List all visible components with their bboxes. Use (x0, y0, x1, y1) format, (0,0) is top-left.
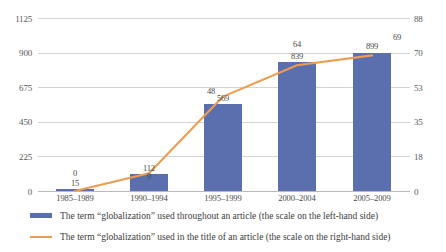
axis-baseline (38, 191, 410, 192)
line-label-1985-1989: 0 (55, 168, 95, 178)
y-axis-right-tick-5: 88 (414, 14, 444, 24)
x-axis-label-2005-2009: 2005–2009 (327, 193, 417, 203)
chart-legend: The term “globalization” used throughout… (0, 205, 446, 247)
bar-label-2005-2009: 899 (352, 41, 392, 51)
y-axis-right-tick-4: 70 (414, 48, 444, 58)
line-label-1995-1999: 48 (191, 86, 231, 96)
legend-label-bars: The term “globalization” used throughout… (60, 211, 378, 221)
y-axis-left-tick-1: 225 (0, 152, 32, 162)
legend-label-line: The term “globalization” used in the tit… (60, 232, 391, 242)
bar-label-2000-2004: 839 (277, 51, 317, 61)
bar-label-1985-1989: 15 (55, 178, 95, 188)
line-label-1990-1994: 9 (129, 171, 169, 181)
y-axis-left-tick-0: 0 (0, 187, 32, 197)
legend-item-bars: The term “globalization” used throughout… (0, 205, 446, 226)
y-axis-left-tick-3: 675 (0, 83, 32, 93)
y-axis-right-tick-0: 0 (414, 187, 444, 197)
line-label-2005-2009: 69 (377, 32, 417, 42)
y-axis-left-tick-4: 900 (0, 48, 32, 58)
y-axis-left-tick-5: 1125 (0, 14, 32, 24)
y-axis-right-tick-1: 18 (414, 152, 444, 162)
line-label-2000-2004: 64 (277, 39, 317, 49)
y-axis-right-tick-2: 35 (414, 117, 444, 127)
y-axis-right-tick-3: 53 (414, 83, 444, 93)
y-axis-left-tick-2: 450 (0, 117, 32, 127)
chart-container: 1125 900 675 450 225 0 88 70 53 35 18 0 … (0, 0, 446, 252)
legend-swatch-line-icon (30, 236, 52, 238)
legend-item-line: The term “globalization” used in the tit… (0, 226, 446, 247)
legend-swatch-bar-icon (30, 213, 52, 218)
